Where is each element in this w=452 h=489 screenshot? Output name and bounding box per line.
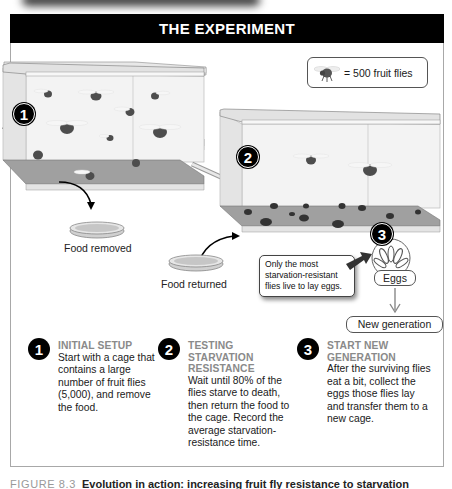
badge-number: 2 bbox=[244, 149, 252, 166]
new-generation-label: New generation bbox=[346, 316, 443, 333]
step-description: After the surviving flies eat a bit, col… bbox=[327, 363, 433, 426]
step-badge-1: 1 bbox=[13, 103, 35, 125]
page-title: THE EXPERIMENT bbox=[159, 20, 295, 37]
food-dish-icon bbox=[68, 220, 126, 240]
step-title: TESTING STARVATION RESISTANCE bbox=[188, 340, 300, 375]
food-returned-label: Food returned bbox=[161, 278, 227, 290]
step-badge-2: 2 bbox=[237, 146, 259, 168]
step-description: Wait until 80% of the flies starve to de… bbox=[188, 375, 296, 450]
fruit-fly-icon bbox=[314, 63, 340, 83]
legend-text: = 500 fruit flies bbox=[344, 67, 413, 79]
step-title: START NEW GENERATION bbox=[327, 340, 417, 363]
cage-2-body bbox=[218, 108, 444, 248]
step-number-3: 3 bbox=[297, 338, 319, 360]
callout-box: Only the most starvation-resistant flies… bbox=[259, 255, 355, 297]
callout-text: Only the most starvation-resistant flies… bbox=[265, 259, 342, 291]
header-bar: THE EXPERIMENT bbox=[10, 14, 444, 43]
figure-title: Evolution in action: increasing fruit fl… bbox=[82, 478, 409, 489]
figure-caption: FIGURE 8.3 Evolution in action: increasi… bbox=[10, 478, 450, 489]
badge-number: 1 bbox=[20, 106, 28, 123]
arrow-down-icon bbox=[389, 288, 401, 316]
legend-box: = 500 fruit flies bbox=[307, 57, 428, 88]
badge-number: 3 bbox=[378, 226, 386, 243]
step-title: INITIAL SETUP bbox=[58, 340, 170, 352]
eggs-label: Eggs bbox=[374, 270, 416, 286]
step-badge-3: 3 bbox=[371, 223, 393, 245]
step-number-1: 1 bbox=[28, 338, 50, 360]
food-dish-returned-icon bbox=[167, 253, 225, 273]
figure-number: FIGURE 8.3 bbox=[10, 478, 76, 489]
step-number-2: 2 bbox=[158, 338, 180, 360]
step-description: Start with a cage that contains a large … bbox=[58, 352, 162, 415]
food-removed-label: Food removed bbox=[64, 242, 132, 254]
decorative-shadow bbox=[22, 0, 260, 6]
callout-arrow-icon bbox=[344, 250, 374, 272]
